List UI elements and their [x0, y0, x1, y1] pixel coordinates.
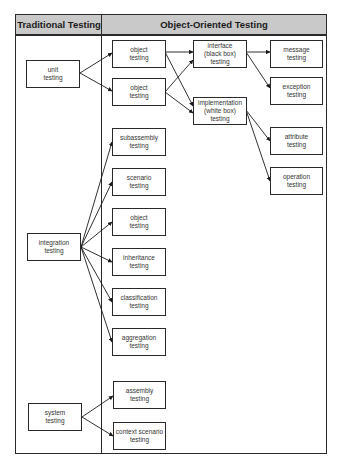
scenario-testing-box: scenario testing	[112, 168, 166, 196]
aggregation-testing-box: aggregation testing	[112, 328, 166, 356]
exception-testing-box: exception testing	[270, 77, 323, 105]
unit-testing-box: unit testing	[26, 60, 80, 88]
attribute-testing-box: attribute testing	[270, 127, 323, 155]
column-divider	[101, 14, 102, 454]
object-testing-box-1: object testing	[112, 40, 166, 68]
system-testing-box: system testing	[28, 403, 82, 431]
message-testing-box: message testing	[270, 40, 323, 68]
context-scenario-testing-box: context scenario testing	[113, 422, 166, 450]
object-testing-box-3: object testing	[112, 208, 166, 236]
inheritance-testing-box: inheritance testing	[112, 248, 166, 276]
integration-testing-box: integration testing	[27, 233, 81, 261]
subassembly-testing-box: subassembly testing	[112, 128, 166, 156]
object-testing-box-2: object testing	[112, 78, 166, 106]
assembly-testing-box: assembly testing	[113, 381, 166, 409]
implementation-testing-box: implementation (white box) testing	[193, 97, 247, 125]
header-object-oriented-testing: Object-Oriented Testing	[101, 14, 327, 36]
header-traditional-testing: Traditional Testing	[15, 14, 102, 36]
interface-testing-box: interface (black box) testing	[193, 40, 247, 68]
operation-testing-box: operation testing	[270, 167, 323, 195]
classification-testing-box: classification testing	[112, 288, 166, 316]
